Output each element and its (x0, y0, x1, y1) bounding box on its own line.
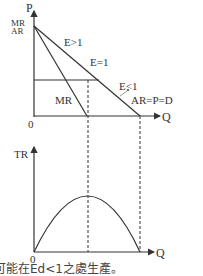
demand-line (34, 26, 140, 116)
mr-curve-label: MR (55, 94, 73, 106)
elastic-label: E>1 (64, 36, 82, 48)
tr-axis-label: TR (14, 148, 29, 160)
caption-text: 可能在Ed<1之處生產。 (0, 259, 123, 276)
q-axis-label-upper: Q (162, 110, 171, 124)
p-axis-label: P (26, 1, 33, 15)
lower-graph: TR Q 0 (14, 147, 165, 265)
demand-curve-label: AR=P=D (131, 94, 173, 106)
unit-elastic-label: E=1 (90, 56, 108, 68)
q-axis-label-lower: Q (156, 246, 165, 260)
inelastic-label: E<1 (119, 80, 137, 92)
origin-label-upper: 0 (28, 118, 34, 130)
upper-graph: P MR AR E>1 E=1 E<1 MR AR=P=D Q 0 (11, 1, 173, 130)
tr-curve (34, 196, 140, 252)
ar-intercept-label: AR (11, 26, 24, 36)
